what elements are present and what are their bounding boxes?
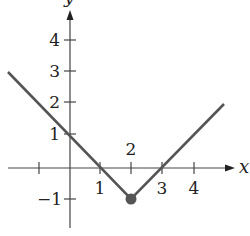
x-tick-label-3: 3: [157, 178, 168, 198]
y-axis-label: y: [63, 0, 75, 7]
x-axis-arrow-icon: [225, 165, 235, 172]
y-tick-label-4: 4: [49, 30, 60, 50]
x-tick-label-2: 2: [126, 139, 137, 159]
y-tick-label-2: 2: [49, 92, 60, 112]
vertex-point: [126, 194, 137, 205]
x-tick-label-4: 4: [189, 178, 200, 198]
y-axis-arrow-icon: [67, 10, 74, 20]
y-tick-label-1: 1: [49, 124, 60, 144]
x-tick-label-1: 1: [95, 178, 106, 198]
x-axis-label: x: [239, 156, 249, 177]
y-tick-label-3: 3: [49, 61, 60, 81]
absolute-value-graph: 1 2 3 4 4 3 2 1 −1 x y: [0, 0, 250, 236]
y-tick-label-neg1: −1: [37, 189, 62, 209]
